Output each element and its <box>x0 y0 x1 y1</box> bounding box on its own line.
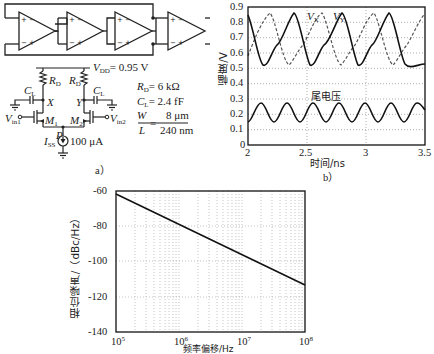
chart-c-plot <box>0 0 434 354</box>
chart-c-ytick: -120 <box>88 292 107 303</box>
chart-c-ytick: -140 <box>88 327 107 338</box>
chart-c-ytick: -100 <box>88 256 107 267</box>
chart-c-ytick: -80 <box>93 221 107 232</box>
chart-c-xtick: 107 <box>237 336 251 348</box>
chart-c-xtick: 105 <box>111 336 125 348</box>
chart-c-ylabel: 相位噪声/（dBc/Hz） <box>70 212 81 318</box>
chart-c-ytick: -60 <box>93 186 107 197</box>
chart-c-xtick: 108 <box>299 336 313 348</box>
chart-c-xlabel-visible: 频率偏移/Hz <box>183 345 234 354</box>
